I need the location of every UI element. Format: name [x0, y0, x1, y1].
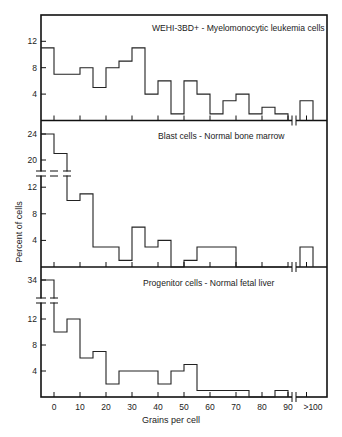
y-tick-label: 4 [32, 235, 37, 245]
x-tick-label: 70 [231, 402, 241, 412]
y-tick-label: 4 [32, 366, 37, 376]
y-tick-label: 12 [28, 36, 38, 46]
panel-2-title: Blast cells - Normal bone marrow [158, 131, 285, 141]
panel-1-histogram [41, 48, 288, 121]
y-axis-label: Percent of cells [14, 201, 24, 263]
panel-frames [41, 15, 327, 397]
y-tick-label: 12 [28, 182, 38, 192]
axis-breaks [36, 116, 296, 403]
x-tick-label: 30 [127, 402, 137, 412]
figure-frame [41, 15, 327, 397]
x-tick-label: 80 [257, 402, 267, 412]
y-tick-label: 8 [32, 209, 37, 219]
panel-3-histogram [41, 280, 288, 397]
y-tick-label: 4 [32, 89, 37, 99]
y-tick-label: 34 [28, 275, 38, 285]
y-tick-labels: 481248122024481234 [28, 36, 38, 376]
y-tick-label: 8 [32, 63, 37, 73]
x-tick-label: 60 [205, 402, 215, 412]
x-tick-label: 40 [153, 402, 163, 412]
histogram-figure: WEHI-3BD+ - Myelomonocytic leukemia cell… [0, 0, 342, 437]
panel-3-title: Progenitor cells - Normal fetal liver [143, 278, 274, 288]
y-tick-label: 24 [28, 129, 38, 139]
x-tick-label: 20 [101, 402, 111, 412]
panel-1-title: WEHI-3BD+ - Myelomonocytic leukemia cell… [152, 23, 325, 33]
x-tick-label: 10 [75, 402, 85, 412]
x-tick-label: 0 [52, 402, 57, 412]
y-tick-label: 12 [28, 314, 38, 324]
x-tick-labels: 0102030405060708090>100 [52, 402, 323, 412]
x-tick-label: 90 [283, 402, 293, 412]
x-axis-label: Grains per cell [142, 415, 200, 425]
panel-2-histogram [41, 134, 288, 267]
y-tick-label: 8 [32, 340, 37, 350]
axis-ticks [41, 41, 307, 397]
y-tick-label: 20 [28, 155, 38, 165]
histogram-steps [41, 48, 313, 397]
x-tick-label: 50 [179, 402, 189, 412]
x-tick-label: >100 [303, 402, 322, 412]
